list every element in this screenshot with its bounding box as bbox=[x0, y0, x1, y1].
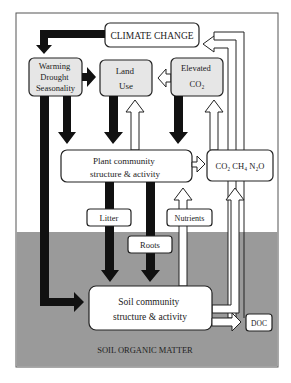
elevated-label: Elevated bbox=[181, 63, 211, 73]
soil-community-box bbox=[89, 286, 212, 330]
soil-climate-feedback-diagram: CLIMATE CHANGE Warming Drought Seasonali… bbox=[0, 0, 291, 383]
roots-label: Roots bbox=[140, 240, 160, 250]
svg-text:Warming Drought Season: Warming Drought Seasonality bbox=[36, 61, 76, 93]
warming-label: Warming bbox=[39, 61, 71, 71]
seasonality-label: Seasonality bbox=[36, 83, 76, 93]
co2-label: CO₂ bbox=[190, 79, 205, 89]
soil-community-label-2: structure & activity bbox=[113, 312, 187, 322]
use-label: Use bbox=[119, 81, 133, 91]
nutrients-label: Nutrients bbox=[175, 214, 205, 223]
climate-change-label: CLIMATE CHANGE bbox=[110, 31, 193, 41]
soil-community-label-1: Soil community bbox=[118, 297, 179, 307]
litter-label: Litter bbox=[100, 213, 119, 223]
doc-label: DOC bbox=[251, 319, 267, 328]
faded-caption-line bbox=[70, 370, 270, 376]
land-label: Land bbox=[116, 66, 135, 76]
drought-label: Drought bbox=[40, 72, 69, 82]
plant-community-label-1: Plant community bbox=[93, 156, 155, 166]
soil-organic-matter-label: SOIL ORGANIC MATTER bbox=[97, 345, 193, 355]
greenhouse-gases-label: CO₂ CH₄ N₂O bbox=[215, 161, 264, 171]
plant-community-label-2: structure & activity bbox=[90, 169, 160, 179]
